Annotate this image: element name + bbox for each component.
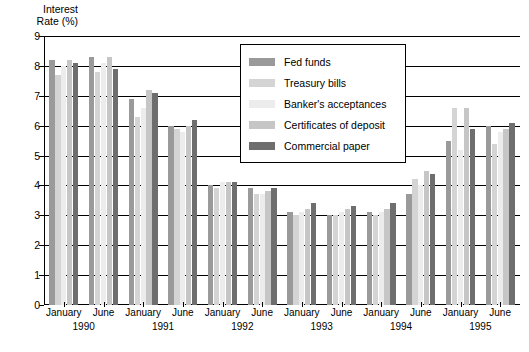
bar <box>333 215 338 305</box>
chart-legend: Fed fundsTreasury billsBanker's acceptan… <box>240 44 406 163</box>
y-tick-mark <box>39 36 44 37</box>
bar <box>345 209 350 305</box>
legend-item-label: Fed funds <box>284 56 331 68</box>
bar <box>129 99 134 305</box>
bar <box>464 108 469 305</box>
bar <box>49 60 54 305</box>
bar-group <box>485 36 515 305</box>
legend-swatch-icon <box>249 142 275 150</box>
y-tick-label: 9 <box>18 31 40 42</box>
y-tick-label: 2 <box>18 240 40 251</box>
y-tick-mark <box>39 66 44 67</box>
y-tick-mark <box>39 215 44 216</box>
bar <box>55 75 60 305</box>
legend-item-label: Commercial paper <box>284 140 370 152</box>
x-axis-year-label: 1993 <box>294 321 350 332</box>
bar-group <box>406 36 436 305</box>
bar <box>107 57 112 305</box>
bar <box>265 191 270 305</box>
y-axis-title: Interest Rate (%) <box>16 3 78 27</box>
bar <box>305 209 310 305</box>
legend-item[interactable]: Treasury bills <box>249 72 397 93</box>
y-tick-label: 8 <box>18 61 40 72</box>
bar <box>339 212 344 305</box>
bar <box>373 215 378 305</box>
y-tick-mark <box>39 275 44 276</box>
bar <box>503 129 508 305</box>
bar <box>509 123 514 305</box>
bar <box>430 174 435 306</box>
bar <box>95 72 100 305</box>
x-axis-year-label: 1992 <box>214 321 270 332</box>
legend-swatch-icon <box>249 58 275 66</box>
bar <box>220 182 225 305</box>
bar <box>390 203 395 305</box>
bar <box>113 69 118 305</box>
legend-item-label: Treasury bills <box>284 77 346 89</box>
legend-item-label: Certificates of deposit <box>284 119 385 131</box>
bar <box>174 129 179 305</box>
legend-item[interactable]: Fed funds <box>249 51 397 72</box>
bar <box>311 203 316 305</box>
bar <box>379 212 384 305</box>
bar <box>492 144 497 305</box>
x-tick-label: June <box>472 307 528 318</box>
bar <box>254 194 259 305</box>
bar <box>192 120 197 305</box>
legend-item[interactable]: Certificates of deposit <box>249 114 397 135</box>
bar <box>287 212 292 305</box>
bar <box>61 66 66 305</box>
legend-item[interactable]: Commercial paper <box>249 135 397 156</box>
bar <box>208 185 213 305</box>
y-tick-mark <box>39 96 44 97</box>
y-tick-label: 3 <box>18 210 40 221</box>
bar <box>226 182 231 305</box>
bar <box>146 90 151 305</box>
bar <box>101 63 106 305</box>
legend-swatch-icon <box>249 121 275 129</box>
legend-swatch-icon <box>249 100 275 108</box>
y-tick-label: 0 <box>18 300 40 311</box>
bar <box>470 129 475 305</box>
bar <box>458 150 463 305</box>
bar-group <box>446 36 476 305</box>
bar <box>168 126 173 305</box>
bar <box>232 182 237 305</box>
bar <box>260 194 265 305</box>
bar <box>367 212 372 305</box>
bar <box>486 126 491 305</box>
x-axis-year-label: 1990 <box>56 321 112 332</box>
y-tick-mark <box>39 126 44 127</box>
bar-group <box>208 36 238 305</box>
y-tick-label: 1 <box>18 270 40 281</box>
bar <box>293 215 298 305</box>
legend-item[interactable]: Banker's acceptances <box>249 93 397 114</box>
bar <box>406 194 411 305</box>
bar <box>299 212 304 305</box>
bar <box>271 188 276 305</box>
y-tick-mark <box>39 185 44 186</box>
x-axis-labels: JanuaryJuneJanuaryJuneJanuaryJuneJanuary… <box>44 307 520 347</box>
bar-group <box>168 36 198 305</box>
interest-rate-bar-chart: Interest Rate (%) JanuaryJuneJanuaryJune… <box>0 0 529 352</box>
y-tick-label: 6 <box>18 121 40 132</box>
y-tick-label: 7 <box>18 91 40 102</box>
bar-group <box>128 36 158 305</box>
bar <box>152 93 157 305</box>
y-tick-mark <box>39 305 44 306</box>
bar <box>180 132 185 305</box>
bar <box>446 141 451 305</box>
x-axis-year-label: 1991 <box>135 321 191 332</box>
bar <box>248 188 253 305</box>
y-tick-mark <box>39 245 44 246</box>
bar <box>67 60 72 305</box>
bar <box>384 209 389 305</box>
bar <box>351 206 356 305</box>
bar <box>214 188 219 305</box>
bar <box>73 63 78 305</box>
bar <box>89 57 94 305</box>
legend-swatch-icon <box>249 79 275 87</box>
bar <box>424 171 429 306</box>
bar-group <box>49 36 79 305</box>
x-axis-year-label: 1995 <box>452 321 508 332</box>
